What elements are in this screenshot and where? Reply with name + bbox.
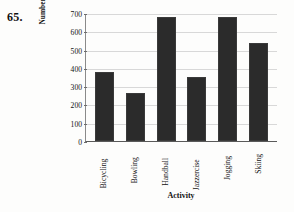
- x-tick-label-text: Bicycling: [99, 159, 108, 189]
- bar: [218, 17, 237, 141]
- y-tick-label: 300: [71, 83, 82, 92]
- plot-area: [85, 14, 277, 142]
- x-tick-label-text: Jogging: [223, 156, 232, 180]
- bar: [157, 17, 176, 141]
- x-label-slot: Bowling: [119, 144, 150, 190]
- x-axis-title: Activity: [85, 191, 277, 200]
- bar-slot: [181, 14, 212, 141]
- y-tick-label: 200: [71, 101, 82, 110]
- x-label-slot: Bicycling: [88, 144, 119, 190]
- y-tick-label: 500: [71, 46, 82, 55]
- x-tick-label: Handball: [165, 130, 174, 158]
- x-tick-label: Bicycling: [103, 129, 112, 159]
- x-tick-label: Bowling: [134, 131, 143, 157]
- problem-number: 65.: [7, 10, 23, 25]
- y-axis-title: Number of calories burned in one hour: [37, 0, 57, 38]
- x-tick-label-text: Skiing: [254, 154, 263, 174]
- x-label-slot: Skiing: [243, 144, 274, 190]
- x-label-slot: Jogging: [212, 144, 243, 190]
- bar-slot: [151, 14, 182, 141]
- y-tick-label: 400: [71, 64, 82, 73]
- x-label-slot: Jazzercise: [181, 144, 212, 190]
- bar-slot: [120, 14, 151, 141]
- y-tick-label: 600: [71, 28, 82, 37]
- bar-series: [86, 14, 277, 141]
- bar: [249, 43, 268, 141]
- y-tick-label: 0: [78, 138, 82, 147]
- x-tick-label: Jogging: [227, 132, 236, 156]
- x-axis-tick-labels: BicyclingBowlingHandballJazzerciseJoggin…: [85, 144, 277, 190]
- y-tick-label: 700: [71, 10, 82, 19]
- chart-figure: 65. Number of calories burned in one hou…: [0, 0, 294, 212]
- y-axis-title-line-1: Number of calories burned: [38, 0, 47, 25]
- x-tick-label-text: Bowling: [130, 157, 139, 183]
- y-tick-label: 100: [71, 119, 82, 128]
- bar-slot: [243, 14, 274, 141]
- plot-wrapper: 0100200300400500600700: [62, 14, 277, 142]
- bar-slot: [89, 14, 120, 141]
- x-label-slot: Handball: [150, 144, 181, 190]
- y-tick-mark: [84, 142, 87, 143]
- x-tick-label-text: Handball: [161, 158, 170, 186]
- y-axis-tick-labels: 0100200300400500600700: [62, 14, 82, 142]
- x-tick-label: Skiing: [258, 134, 267, 154]
- x-tick-label: Jazzercise: [196, 129, 205, 160]
- bar-slot: [212, 14, 243, 141]
- x-tick-label-text: Jazzercise: [192, 159, 201, 190]
